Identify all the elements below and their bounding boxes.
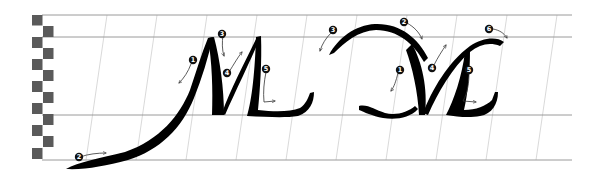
marker-5: 5 <box>465 66 473 75</box>
horizontal-guides <box>42 15 572 160</box>
svg-text:1: 1 <box>191 56 196 64</box>
svg-text:1: 1 <box>398 66 403 74</box>
stroke-stem-2 <box>247 36 314 117</box>
letter-1-annotations <box>80 35 275 157</box>
svg-text:6: 6 <box>487 25 492 33</box>
svg-text:4: 4 <box>430 64 435 72</box>
stroke-stem-2 <box>446 50 498 117</box>
marker-4: 4 <box>428 64 436 73</box>
svg-text:3: 3 <box>220 30 225 38</box>
svg-text:5: 5 <box>264 65 269 73</box>
svg-text:4: 4 <box>225 69 230 77</box>
marker-2: 2 <box>400 18 408 27</box>
stroke-stem-1 <box>208 37 224 115</box>
svg-text:3: 3 <box>331 26 336 34</box>
svg-text:2: 2 <box>402 18 407 26</box>
letter-1-markers: 1 2 3 4 5 <box>75 30 270 162</box>
marker-1: 1 <box>396 66 404 75</box>
marker-6: 6 <box>485 25 493 34</box>
letter-m-variant-2 <box>329 24 504 119</box>
calligraphy-diagram: 1 2 3 4 5 1 2 3 4 5 6 <box>0 0 603 179</box>
svg-text:2: 2 <box>77 153 82 161</box>
svg-text:5: 5 <box>467 66 472 74</box>
marker-1: 1 <box>189 56 197 65</box>
marker-3: 3 <box>329 26 337 35</box>
marker-5: 5 <box>262 65 270 74</box>
stroke-left-bowl <box>359 106 418 119</box>
marker-4: 4 <box>223 69 231 78</box>
